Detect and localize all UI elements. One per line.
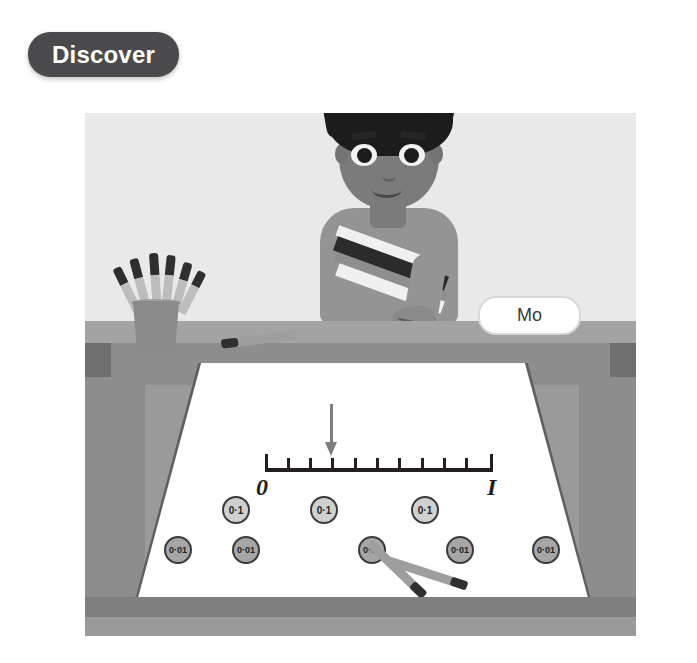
number-line-tick-5 <box>376 458 379 472</box>
counter-label: 0·01 <box>451 545 469 555</box>
desk-left-panel <box>85 343 145 611</box>
character-name-tag: Mo <box>478 296 581 335</box>
counter-token-icon[interactable]: 0·1 <box>310 496 338 524</box>
hair-spike-5 <box>320 113 349 138</box>
character-name-label: Mo <box>517 305 542 326</box>
counter-token-icon[interactable]: 0·1 <box>222 496 250 524</box>
boy-nose <box>382 170 396 182</box>
counter-label: 0·1 <box>418 505 432 516</box>
counter-label: 0·01 <box>237 545 255 555</box>
counter-label: 0·1 <box>317 505 331 516</box>
arrow-head <box>325 442 337 456</box>
number-line-tick-6 <box>398 458 401 472</box>
desk-right-panel <box>579 343 636 611</box>
boy-pupil-left <box>357 148 372 163</box>
desk-right-shadow <box>610 343 636 377</box>
number-line-tick-0 <box>265 454 268 472</box>
boy-mouth <box>372 182 402 198</box>
number-line-tick-9 <box>465 458 468 472</box>
number-line-tick-7 <box>421 458 424 472</box>
arrow-shaft <box>330 404 333 446</box>
number-line: 0 I <box>265 446 493 498</box>
boy-pupil-right <box>404 148 419 163</box>
number-line-tick-3 <box>331 458 334 472</box>
number-line-tick-8 <box>443 458 446 472</box>
down-arrow-icon <box>325 404 339 458</box>
student-avatar-icon <box>294 113 484 323</box>
desk-left-shadow <box>85 343 111 377</box>
discover-badge: Discover <box>28 32 179 77</box>
classroom-illustration: 0 I 0·1 0·1 0·1 0·01 0·01 0·01 0·01 0·01… <box>85 113 636 636</box>
counter-token-icon[interactable]: 0·01 <box>232 536 260 564</box>
counter-label: 0·1 <box>229 505 243 516</box>
number-line-end-label: I <box>487 474 496 501</box>
counter-token-icon[interactable]: 0·01 <box>532 536 560 564</box>
number-line-tick-4 <box>354 458 357 472</box>
number-line-tick-10 <box>490 454 493 472</box>
desk-floor-shadow <box>85 617 636 636</box>
counter-label: 0·01 <box>537 545 555 555</box>
pen-pot-icon <box>125 253 187 353</box>
counter-token-icon[interactable]: 0·01 <box>164 536 192 564</box>
number-line-start-label: 0 <box>256 474 268 501</box>
number-line-tick-2 <box>309 458 312 472</box>
number-line-tick-1 <box>287 458 290 472</box>
counter-token-icon[interactable]: 0·01 <box>446 536 474 564</box>
pen-pot-cup <box>131 301 181 353</box>
counter-label: 0·01 <box>169 545 187 555</box>
counter-token-icon[interactable]: 0·1 <box>411 496 439 524</box>
hair-spike-6 <box>425 113 458 138</box>
number-line-axis <box>265 468 493 472</box>
desk-bottom-rail <box>85 597 636 617</box>
discover-badge-label: Discover <box>52 43 155 67</box>
